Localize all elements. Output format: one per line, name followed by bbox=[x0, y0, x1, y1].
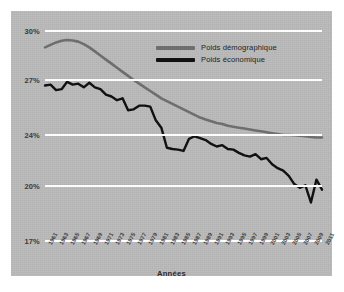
gridline-y bbox=[45, 30, 322, 32]
legend-label-economic: Poids économique bbox=[201, 55, 265, 64]
legend-swatch-demographic bbox=[156, 46, 195, 50]
x-axis-title: Années bbox=[11, 269, 332, 278]
gridline-y bbox=[45, 79, 322, 81]
legend-item-economic: Poids économique bbox=[156, 54, 316, 65]
legend-item-demographic: Poids démographique bbox=[156, 42, 316, 53]
y-axis-tick-label: 27% bbox=[24, 76, 40, 85]
x-axis-tick-label: 2011 bbox=[324, 232, 335, 246]
y-axis-tick-label: 30% bbox=[24, 27, 40, 36]
chart-legend: Poids démographique Poids économique bbox=[156, 42, 316, 66]
y-axis-tick-label: 17% bbox=[24, 237, 40, 246]
chart-figure: 30%27%24%20%17% 196119631965196719691971… bbox=[0, 0, 344, 292]
gridline-y bbox=[45, 134, 322, 136]
chart-panel: 30%27%24%20%17% 196119631965196719691971… bbox=[11, 11, 332, 276]
y-axis-tick-label: 20% bbox=[24, 182, 40, 191]
legend-swatch-economic bbox=[156, 58, 195, 62]
legend-label-demographic: Poids démographique bbox=[201, 43, 277, 52]
y-axis-tick-label: 24% bbox=[24, 131, 40, 140]
gridline-y bbox=[45, 185, 322, 187]
